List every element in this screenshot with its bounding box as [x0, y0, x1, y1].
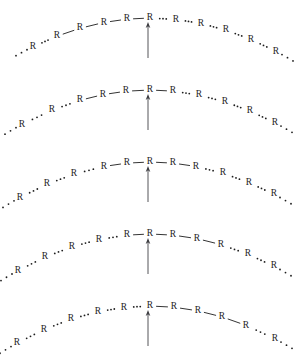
ellipsis-separator [81, 241, 90, 245]
chain-unit-4: R [101, 17, 108, 27]
solid-bond [156, 306, 167, 307]
solid-bond [110, 20, 120, 21]
propagation-arrow [146, 94, 151, 130]
chain-unit-10: R [246, 177, 253, 187]
ellipsis-separator [80, 313, 89, 317]
right-continuation-dots [280, 341, 293, 349]
solid-bond [203, 240, 214, 243]
ellipsis-separator [258, 114, 266, 119]
frame-3-graphic: RRRRRRRRRRR [0, 144, 294, 216]
ellipsis-separator [205, 168, 214, 172]
chain-unit-6: R [147, 84, 154, 94]
solid-bond [204, 312, 215, 315]
propagation-arrow [146, 22, 151, 58]
solid-bond [86, 24, 97, 27]
chain-unit-1: R [15, 265, 22, 275]
chain-unit-3: R [77, 22, 84, 32]
chain-unit-10: R [248, 34, 255, 44]
propagation-arrow [146, 310, 151, 346]
ellipsis-separator [233, 104, 241, 108]
ellipsis-separator [84, 168, 95, 172]
solid-bond [63, 30, 74, 34]
right-continuation-dots [279, 269, 292, 277]
chain-unit-8: R [193, 161, 200, 171]
ellipsis-separator [32, 114, 43, 120]
chain-unit-8: R [194, 233, 201, 243]
ellipsis-separator [54, 250, 63, 255]
chain-unit-3: R [69, 241, 76, 251]
chain-unit-4: R [100, 89, 107, 99]
right-continuation-dots [280, 125, 293, 133]
right-continuation-dots [281, 54, 294, 62]
frame-4: RRRRRRRRRRR [0, 216, 294, 288]
left-continuation-dots [2, 200, 15, 208]
chain-unit-7: R [171, 301, 178, 311]
chain-unit-2: R [41, 324, 48, 334]
solid-bond [110, 164, 120, 165]
chain-unit-11: R [273, 46, 280, 56]
ellipsis-separator [107, 308, 115, 311]
chain-unit-8: R [198, 18, 205, 28]
ellipsis-separator [234, 33, 242, 37]
solid-bond [86, 96, 96, 99]
chain-unit-7: R [170, 157, 177, 167]
chain-unit-5: R [124, 229, 131, 239]
chain-unit-1: R [30, 41, 37, 51]
frame-2: RRRRRRRRRRR [0, 72, 294, 144]
chain-unit-1: R [19, 119, 26, 129]
chain-unit-6: R [147, 300, 154, 310]
frame-3: RRRRRRRRRRR [0, 144, 294, 216]
chain-unit-7: R [170, 229, 177, 239]
chain-unit-7: R [170, 85, 177, 95]
chain-unit-10: R [243, 320, 250, 330]
ellipsis-separator [56, 177, 65, 182]
ellipsis-separator [53, 322, 62, 327]
chain-unit-3: R [77, 94, 84, 104]
chain-unit-11: R [271, 188, 278, 198]
chain-unit-11: R [272, 117, 279, 127]
chain-unit-5: R [123, 85, 130, 95]
ellipsis-separator [232, 176, 241, 180]
ellipsis-separator [108, 236, 117, 239]
chain-unit-6: R [147, 156, 154, 166]
ellipsis-separator [208, 97, 217, 101]
left-continuation-dots [15, 49, 28, 57]
ellipsis-separator [182, 92, 190, 95]
left-continuation-dots [0, 273, 13, 281]
ellipsis-separator [27, 261, 36, 267]
chain-unit-9: R [220, 167, 227, 177]
chain-unit-4: R [96, 234, 103, 244]
chain-unit-3: R [68, 313, 75, 323]
frame-5-graphic: RRRRRRRRRRR [0, 288, 294, 360]
chain-unit-10: R [245, 248, 252, 258]
solid-bond [132, 90, 143, 91]
solid-bond [109, 92, 119, 94]
ellipsis-separator [209, 25, 217, 28]
chain-unit-4: R [101, 161, 108, 171]
left-continuation-dots [4, 127, 17, 135]
ellipsis-separator [257, 258, 266, 263]
chain-unit-10: R [247, 105, 254, 115]
propagation-arrow [146, 166, 151, 202]
ellipsis-separator [185, 20, 193, 23]
ellipsis-separator [29, 188, 38, 194]
chain-unit-8: R [196, 89, 203, 99]
chain-unit-11: R [272, 333, 279, 343]
chain-unit-5: R [121, 302, 128, 312]
chain-unit-5: R [124, 13, 131, 23]
frame-1: RRRRRRRRRRR [0, 0, 294, 72]
left-continuation-dots [0, 346, 12, 354]
solid-bond [228, 319, 240, 323]
ellipsis-separator [257, 186, 265, 191]
chain-unit-4: R [95, 306, 102, 316]
ellipsis-separator [159, 18, 167, 20]
diagram-canvas: RRRRRRRRRRRRRRRRRRRRRRRRRRRRRRRRRRRRRRRR… [0, 0, 294, 361]
frame-4-graphic: RRRRRRRRRRR [0, 216, 294, 288]
chain-unit-8: R [195, 305, 202, 315]
chain-unit-6: R [147, 228, 154, 238]
frame-1-graphic: RRRRRRRRRRR [0, 0, 294, 72]
chain-unit-2: R [49, 104, 56, 114]
ellipsis-separator [259, 43, 267, 48]
chain-unit-5: R [124, 157, 131, 167]
chain-unit-2: R [44, 178, 51, 188]
